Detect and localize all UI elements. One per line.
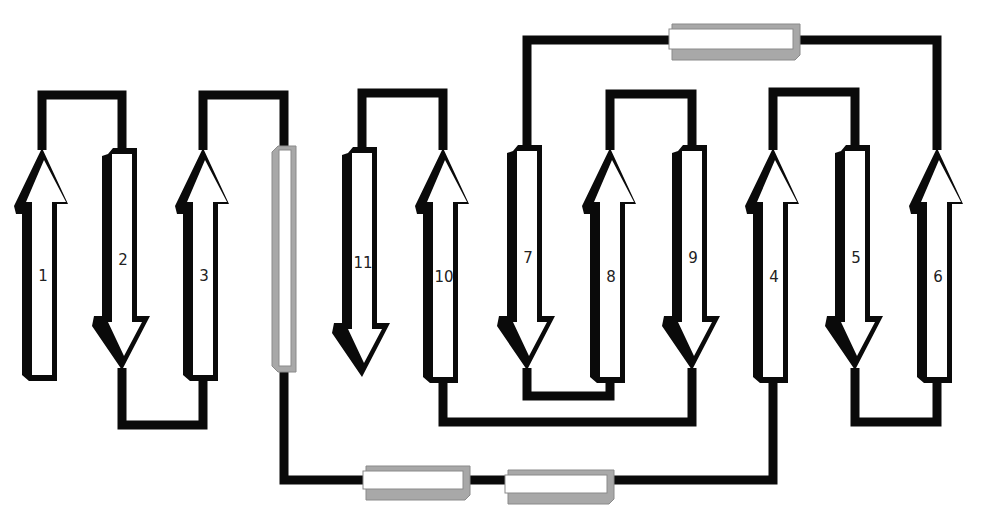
strand-4: 4 [745, 148, 799, 383]
loop-10-11 [362, 93, 443, 150]
strand-label: 6 [933, 268, 943, 286]
strand-6: 6 [909, 148, 963, 383]
strand-label: 8 [606, 268, 616, 286]
loop-1-2 [42, 95, 122, 150]
strand-label: 4 [769, 268, 779, 286]
loop-3-helix [203, 95, 284, 150]
loop-helix-bottom [284, 372, 366, 480]
strand-9: 9 [662, 145, 720, 370]
strand-11: 11 [332, 147, 390, 377]
strand-label: 10 [434, 268, 453, 286]
strand-5: 5 [825, 145, 883, 370]
strand-7: 7 [497, 145, 555, 370]
strand-8: 8 [582, 148, 636, 383]
strands-layer: 1231110789456 [14, 145, 963, 383]
loop-8-9 [610, 94, 692, 150]
strand-label: 1 [38, 267, 48, 285]
strand-label: 7 [523, 249, 533, 267]
topology-diagram: 1231110789456 [0, 0, 989, 529]
strand-label: 2 [118, 251, 128, 269]
strand-10: 10 [415, 148, 469, 383]
strand-1: 1 [14, 148, 68, 381]
strand-label: 3 [199, 267, 209, 285]
strand-label: 11 [353, 254, 372, 272]
strand-label: 5 [851, 249, 861, 267]
loop-4-5 [773, 92, 855, 150]
loops-layer [42, 40, 937, 480]
strand-3: 3 [175, 148, 229, 381]
strand-2: 2 [92, 148, 150, 370]
helix-bottom-2 [505, 470, 614, 504]
strand-label: 9 [688, 249, 698, 267]
helix-bottom-1 [363, 466, 470, 500]
helix-top [669, 24, 800, 60]
helix-vertical [272, 146, 296, 372]
